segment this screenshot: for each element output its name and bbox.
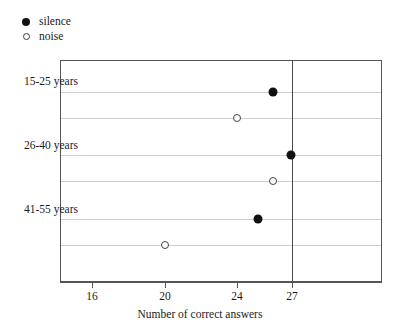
- x-axis-line: [60, 282, 382, 283]
- legend-label-noise: noise: [34, 29, 63, 44]
- group-label-26-40: 26-40 years: [24, 139, 78, 151]
- legend-item-noise: noise: [18, 29, 71, 44]
- chart-figure: silence noise 15-25 years 26-40 years 41…: [0, 0, 400, 333]
- x-axis-title: Number of correct answers: [0, 308, 400, 320]
- grid-line: [61, 219, 381, 220]
- group-label-41-55: 41-55 years: [24, 203, 78, 215]
- x-tick: [237, 282, 238, 288]
- data-point-15-25-silence: [269, 88, 278, 97]
- grid-line: [61, 118, 381, 119]
- x-tick-label-20: 20: [159, 290, 171, 303]
- x-tick-label-16: 16: [86, 290, 98, 303]
- data-point-41-55-noise: [161, 241, 169, 249]
- legend-label-silence: silence: [34, 14, 71, 29]
- data-point-15-25-noise: [233, 114, 241, 122]
- grid-line: [61, 92, 381, 93]
- filled-circle-icon: [18, 18, 34, 26]
- x-tick: [92, 282, 93, 288]
- reference-line-27: [292, 60, 293, 282]
- open-circle-icon: [18, 33, 34, 40]
- grid-line: [61, 181, 381, 182]
- grid-line: [61, 245, 381, 246]
- x-tick: [292, 282, 293, 288]
- chart-legend: silence noise: [18, 14, 71, 44]
- legend-item-silence: silence: [18, 14, 71, 29]
- group-label-15-25: 15-25 years: [24, 75, 78, 87]
- x-tick-label-24: 24: [231, 290, 243, 303]
- data-point-41-55-silence: [254, 215, 263, 224]
- x-tick: [165, 282, 166, 288]
- grid-line: [61, 155, 381, 156]
- x-tick-label-27: 27: [286, 290, 298, 303]
- plot-area: [60, 60, 382, 282]
- data-point-26-40-silence: [287, 151, 296, 160]
- data-point-26-40-noise: [269, 177, 277, 185]
